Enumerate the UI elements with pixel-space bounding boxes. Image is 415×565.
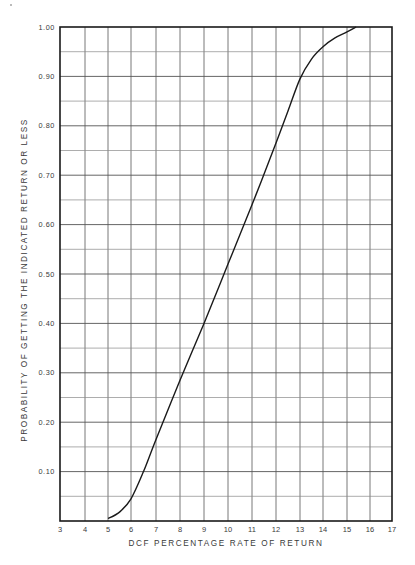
x-tick-label: 8 [178, 525, 182, 534]
x-tick-label: 12 [272, 525, 280, 534]
chart-container: 34567891011121314151617 0.100.200.300.40… [0, 0, 415, 565]
y-tick-label: 0.60 [38, 220, 55, 229]
y-tick-label: 0.70 [38, 171, 55, 180]
grid [60, 27, 392, 521]
y-tick-label: 1.00 [38, 23, 55, 32]
y-tick-label: 0.30 [38, 368, 55, 377]
x-tick-label: 13 [296, 525, 304, 534]
data-series [108, 27, 356, 519]
y-tick-label: 0.10 [38, 467, 55, 476]
x-tick-label: 7 [154, 525, 158, 534]
x-tick-label: 14 [319, 525, 327, 534]
probability-chart: 34567891011121314151617 0.100.200.300.40… [0, 0, 415, 565]
scan-speck [10, 4, 12, 6]
x-tick-label: 9 [202, 525, 206, 534]
y-tick-label: 0.50 [38, 270, 55, 279]
x-axis-title: DCF PERCENTAGE RATE OF RETURN [129, 539, 324, 548]
x-tick-label: 16 [366, 525, 374, 534]
x-tick-label: 15 [343, 525, 351, 534]
y-axis-ticks: 0.100.200.300.400.500.600.700.800.901.00 [38, 23, 55, 477]
x-axis-ticks: 34567891011121314151617 [58, 525, 396, 534]
y-tick-label: 0.40 [38, 319, 55, 328]
cumulative-probability-curve [108, 27, 356, 519]
x-tick-label: 17 [388, 525, 396, 534]
x-tick-label: 6 [129, 525, 133, 534]
y-tick-label: 0.20 [38, 418, 55, 427]
x-tick-label: 10 [224, 525, 232, 534]
y-tick-label: 0.90 [38, 72, 55, 81]
x-tick-label: 11 [248, 525, 256, 534]
y-tick-label: 0.80 [38, 121, 55, 130]
x-tick-label: 5 [106, 525, 110, 534]
x-tick-label: 4 [83, 525, 87, 534]
x-tick-label: 3 [58, 525, 62, 534]
y-axis-title: PROBABILITY OF GETTING THE INDICATED RET… [20, 118, 29, 441]
